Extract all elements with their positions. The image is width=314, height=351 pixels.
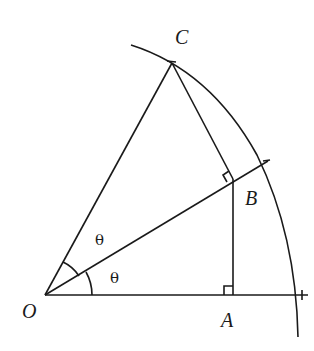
geometry-diagram: C B O A θ θ: [0, 0, 314, 351]
right-angle-marker-A: [224, 286, 233, 295]
right-angle-marker-B: [223, 171, 229, 182]
label-O: O: [22, 300, 36, 322]
label-theta-lower: θ: [110, 269, 119, 287]
angle-arc-AOB: [86, 272, 92, 295]
label-B: B: [245, 187, 257, 209]
label-C: C: [175, 26, 189, 48]
tick-C: [167, 61, 176, 62]
label-A: A: [219, 309, 234, 331]
tick-arc-OB: [263, 160, 270, 161]
angle-arc-BOC: [63, 262, 79, 276]
line-OC: [45, 63, 172, 295]
label-theta-upper: θ: [95, 231, 104, 249]
circular-arc: [131, 45, 298, 337]
line-CB: [172, 63, 233, 179]
